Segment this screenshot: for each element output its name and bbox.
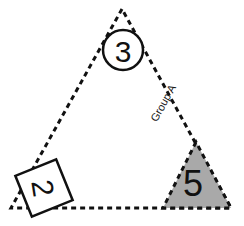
- apex-circle-value-3: 3: [115, 35, 132, 68]
- diagram-canvas: 5 3 2 Group A: [0, 0, 244, 226]
- geometry-diagram: 5 3 2 Group A: [0, 0, 244, 226]
- shaded-triangle-value-5: 5: [183, 163, 203, 204]
